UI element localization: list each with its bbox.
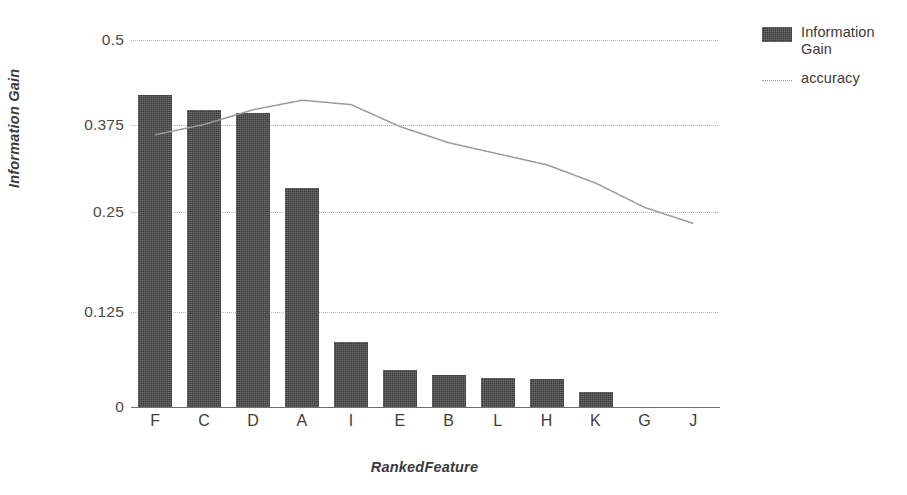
- legend-label-accuracy: accuracy: [801, 70, 860, 87]
- chart-container: 0.5 0.375 0.25 0.125 0 FCDAIEBLHKGJ Info…: [0, 0, 907, 495]
- x-axis-line: [131, 407, 720, 408]
- x-tick-label-F: F: [131, 412, 180, 430]
- chart-legend: Information Gain accuracy: [762, 24, 902, 100]
- x-tick-label-C: C: [180, 412, 229, 430]
- y-tick-label-0.5: 0.5: [54, 31, 124, 49]
- x-tick-label-E: E: [376, 412, 425, 430]
- legend-swatch-icon: [762, 27, 792, 42]
- x-tick-label-D: D: [229, 412, 278, 430]
- legend-item-information-gain: Information Gain: [762, 24, 902, 58]
- x-axis-title: RankedFeature: [131, 459, 718, 475]
- y-tick-label-0.125: 0.125: [54, 303, 124, 321]
- x-axis-tick-labels: FCDAIEBLHKGJ: [131, 412, 718, 442]
- x-tick-label-I: I: [327, 412, 376, 430]
- x-tick-label-G: G: [620, 412, 669, 430]
- y-tick-label-0: 0: [54, 398, 124, 416]
- y-axis-title: Information Gain: [6, 28, 22, 188]
- legend-line-icon: [762, 73, 792, 88]
- y-tick-label-0.25: 0.25: [54, 203, 124, 221]
- x-tick-label-J: J: [669, 412, 718, 430]
- x-tick-label-H: H: [522, 412, 571, 430]
- y-axis-tick-labels: 0.5 0.375 0.25 0.125 0: [50, 40, 124, 407]
- legend-item-accuracy: accuracy: [762, 70, 902, 88]
- x-tick-label-A: A: [278, 412, 327, 430]
- line-series-accuracy: [131, 40, 718, 407]
- y-tick-label-0.375: 0.375: [54, 116, 124, 134]
- x-tick-label-K: K: [571, 412, 620, 430]
- x-tick-label-B: B: [425, 412, 474, 430]
- legend-label-information-gain: Information Gain: [801, 24, 902, 58]
- x-tick-label-L: L: [473, 412, 522, 430]
